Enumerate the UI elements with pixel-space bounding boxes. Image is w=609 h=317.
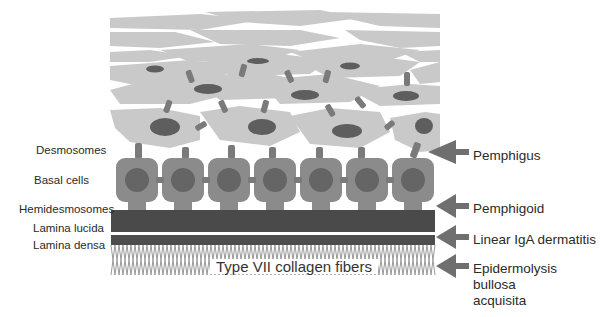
skin-layer-diagram: Desmosomes Basal cells Hemidesmosomes La… [0,0,609,317]
arrow-linear-iga [436,225,469,249]
label-type-vii-collagen: Type VII collagen fibers [210,259,378,274]
label-hemidesmosomes: Hemidesmosomes [19,204,114,216]
label-epidermolysis-line3: acquisita [473,293,526,309]
label-desmosomes: Desmosomes [36,145,106,157]
label-pemphigoid: Pemphigoid [473,201,544,217]
label-epidermolysis-line1: Epidermolysis [473,261,557,277]
label-lamina-densa: Lamina densa [33,240,105,252]
arrows [428,140,469,278]
label-pemphigus: Pemphigus [473,148,541,164]
label-lamina-lucida: Lamina lucida [33,223,104,235]
lamina-lucida-band [111,210,435,232]
label-linear-iga-dermatitis: Linear IgA dermatitis [473,232,596,248]
label-epidermolysis-line2: bullosa [473,277,516,293]
arrow-eba [436,254,469,278]
label-basal-cells: Basal cells [34,175,89,187]
lamina-densa-band [111,235,435,245]
arrow-pemphigoid [436,194,469,218]
basal-cells [116,141,434,210]
